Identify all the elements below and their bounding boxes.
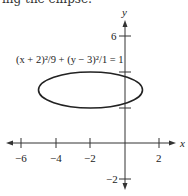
y-axis-label: y <box>121 6 127 18</box>
y-axis-down-arrow-icon <box>123 183 128 190</box>
x-axis-left-arrow-icon <box>6 141 13 146</box>
y-tick-label: 6 <box>111 30 117 42</box>
ellipse-curve <box>39 72 143 108</box>
x-tick-label: −6 <box>15 152 27 164</box>
ellipse-graph: x y −6 −4 −2 2 6 −2 (x + 2)²/9 + (y − 3)… <box>0 0 188 196</box>
x-axis-right-arrow-icon <box>169 141 176 146</box>
y-axis-up-arrow-icon <box>123 20 128 27</box>
x-tick-label: −4 <box>50 152 62 164</box>
x-axis-label: x <box>179 137 185 149</box>
x-tick-label: −2 <box>84 152 96 164</box>
ellipse-equation: (x + 2)²/9 + (y − 3)²/1 = 1 <box>16 54 124 66</box>
x-tick-label: 2 <box>156 152 162 164</box>
y-tick-label: −2 <box>106 173 118 185</box>
